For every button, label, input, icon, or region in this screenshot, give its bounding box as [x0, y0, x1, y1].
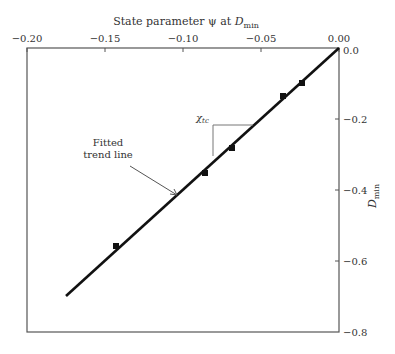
data-point [280, 93, 286, 99]
chi-tc-label: χtc [195, 112, 209, 125]
x-tick-label: −0.05 [246, 33, 277, 44]
y-tick-label: −0.4 [343, 185, 367, 196]
chart: −0.20 −0.15 −0.10 −0.05 0.00 State param… [0, 0, 395, 354]
data-point [299, 80, 305, 86]
x-tick-labels: −0.20 −0.15 −0.10 −0.05 0.00 [12, 33, 350, 44]
data-point [113, 243, 119, 249]
x-tick-label: 0.00 [328, 33, 350, 44]
y-tick-label: −0.6 [343, 256, 367, 267]
data-point [229, 145, 235, 151]
x-tick-label: −0.20 [12, 33, 43, 44]
data-point [202, 170, 208, 176]
fitted-label-line1: Fitted [93, 137, 124, 148]
slope-triangle [213, 125, 253, 156]
y-tick-label: 0.0 [343, 45, 359, 56]
y-axis-title: Dmin [366, 184, 381, 209]
y-tick-label: −0.2 [343, 114, 367, 125]
x-tick-label: −0.15 [90, 33, 121, 44]
y-tick-label: −0.8 [343, 327, 367, 338]
y-tick-labels: 0.0 −0.2 −0.4 −0.6 −0.8 [343, 45, 367, 338]
x-axis-title: State parameter ψ at Dmin [113, 15, 259, 30]
arrow-icon [130, 166, 177, 195]
x-tick-label: −0.10 [168, 33, 199, 44]
fitted-label-line2: trend line [83, 149, 133, 160]
